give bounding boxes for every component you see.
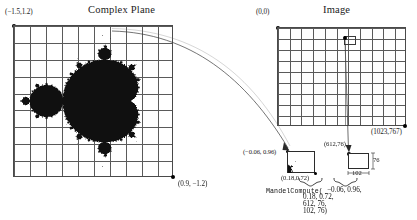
callout-brace-right	[334, 178, 357, 186]
figure-stage: Complex Plane (−1.5,1.2) (0.9, −1.2) Ima…	[0, 0, 417, 220]
image-region-arrowhead	[346, 145, 352, 153]
image-region-width-tick	[348, 171, 369, 175]
image-region-height-tick	[371, 153, 375, 169]
complex-plane-to-region-arc-secondary	[112, 29, 290, 147]
callout-brace-left	[299, 178, 322, 186]
complex-plane-to-region-arc	[112, 31, 288, 148]
connector-overlay	[0, 0, 417, 220]
